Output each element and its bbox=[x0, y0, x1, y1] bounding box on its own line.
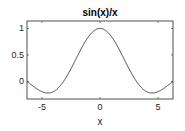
x-axis-label: x bbox=[98, 116, 103, 127]
x-tick-label: 0 bbox=[97, 102, 102, 112]
x-tick-label: -5 bbox=[38, 102, 46, 112]
chart: -505 00.51 sin(x)/x x bbox=[0, 0, 185, 131]
y-tick-label: 0 bbox=[19, 76, 24, 86]
plot-area bbox=[27, 21, 173, 99]
chart-title: sin(x)/x bbox=[82, 7, 117, 18]
x-tick-label: 5 bbox=[156, 102, 161, 112]
y-tick-label: 0.5 bbox=[11, 50, 24, 60]
y-tick-label: 1 bbox=[19, 23, 24, 33]
